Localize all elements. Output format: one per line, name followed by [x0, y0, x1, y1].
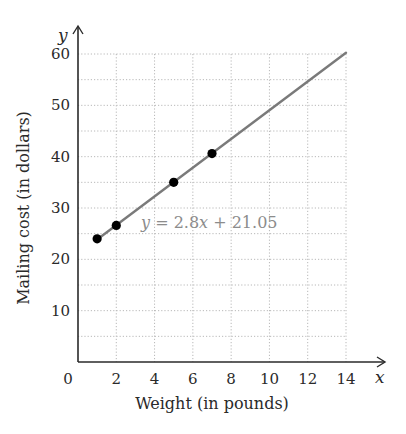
x-axis-label: Weight (in pounds): [135, 394, 289, 413]
x-axis-variable: x: [375, 367, 385, 387]
y-axis-label: Mailing cost (in dollars): [14, 111, 33, 305]
x-tick-label: 8: [226, 370, 236, 388]
y-axis-variable: y: [57, 25, 68, 45]
x-tick-label: 6: [188, 370, 198, 388]
x-tick-label: 10: [260, 370, 279, 388]
y-tick-label: 60: [51, 45, 70, 63]
x-tick-label: 4: [150, 370, 160, 388]
y-tick-label: 40: [51, 148, 70, 166]
data-point: [93, 234, 102, 243]
mailing-cost-chart: 02468101214102030405060 Weight (in pound…: [0, 0, 406, 434]
axes: [73, 26, 385, 367]
eq-tail: + 21.05: [208, 213, 277, 232]
data-point: [169, 178, 178, 187]
data-point: [207, 149, 216, 158]
eq-rest: = 2.8: [150, 213, 199, 232]
y-tick-label: 20: [51, 250, 70, 268]
y-tick-label: 10: [51, 302, 70, 320]
eq-x: x: [199, 213, 208, 232]
y-tick-label: 30: [51, 199, 70, 217]
x-tick-label: 0: [63, 370, 73, 388]
grid-lines: [78, 54, 346, 362]
x-tick-label: 14: [336, 370, 355, 388]
regression-equation-label: y = 2.8x + 21.05: [140, 213, 278, 232]
data-point: [112, 221, 121, 230]
x-tick-label: 2: [112, 370, 122, 388]
regression-line: [97, 53, 346, 240]
y-tick-label: 50: [51, 96, 70, 114]
x-tick-label: 12: [298, 370, 317, 388]
